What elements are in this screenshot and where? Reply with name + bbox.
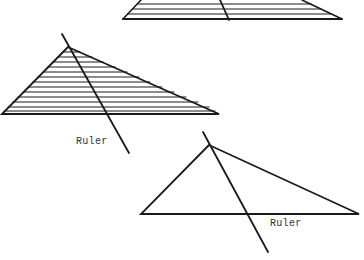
plain-triangle [141, 132, 359, 252]
top-hatched-shape [123, 0, 342, 20]
top-ruler [220, 0, 229, 20]
diagram-canvas [0, 0, 364, 260]
hatched-triangle [2, 34, 219, 153]
bottom-ruler [203, 132, 268, 252]
ruler-label-1: Ruler [76, 136, 108, 147]
ruler-label-2: Ruler [270, 218, 302, 229]
